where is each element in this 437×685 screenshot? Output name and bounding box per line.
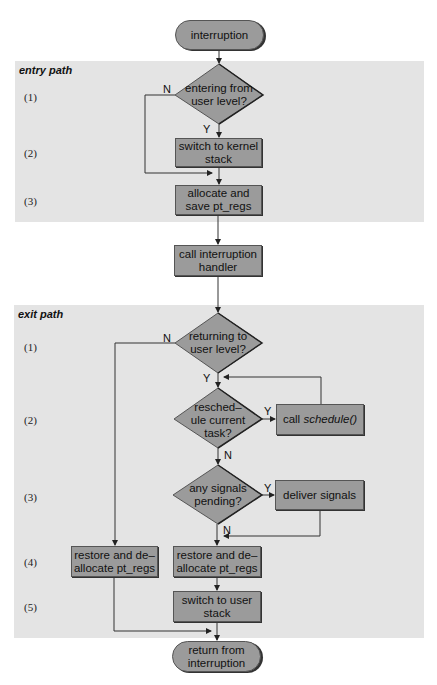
reschedule-yes-label: Y [264, 405, 271, 417]
decision-signals-label: any signals pending? [186, 480, 250, 510]
reschedule-no-label: N [224, 449, 232, 461]
decision-entering-label: entering from user level? [185, 80, 253, 110]
restore-left-node: restore and de– allocate pt_regs [71, 546, 158, 577]
end-node: return from interruption [172, 641, 261, 672]
switch-kernel-stack-node: switch to kernel stack [175, 138, 262, 167]
restore-right-node: restore and de– allocate pt_regs [173, 546, 261, 577]
signals-yes-label: Y [264, 482, 271, 494]
call-schedule-node: call schedule() [276, 404, 364, 435]
start-node: interruption [175, 20, 264, 50]
returning-no-label: N [163, 332, 171, 344]
deliver-signals-node: deliver signals [275, 480, 364, 510]
decision-reschedule-label: resched– ule current task? [190, 399, 246, 441]
entry-no-label: N [163, 83, 171, 95]
entry-yes-label: Y [203, 123, 210, 135]
save-pt-regs-node: allocate and save pt_regs [175, 185, 262, 215]
signals-no-label: N [223, 524, 231, 536]
returning-yes-label: Y [203, 372, 210, 384]
decision-returning-label: returning to user level? [186, 328, 250, 358]
switch-user-stack-node: switch to user stack [173, 591, 261, 622]
call-schedule-prefix: call [283, 413, 300, 426]
call-schedule-func: schedule() [303, 413, 357, 426]
call-handler-node: call interruption handler [174, 245, 262, 276]
